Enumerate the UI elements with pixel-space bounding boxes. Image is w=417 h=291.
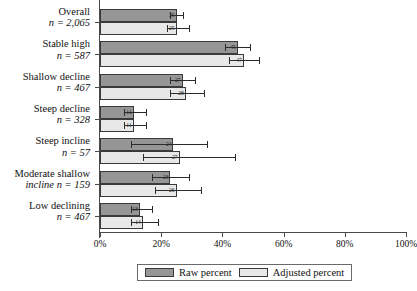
- error-bar-line: [131, 209, 152, 210]
- error-bar-cap: [152, 174, 153, 181]
- error-bar-cap: [189, 25, 190, 32]
- category-name: Steep incline: [0, 135, 90, 146]
- category-sample-size: n = 57: [0, 147, 90, 158]
- error-bar-cap: [146, 122, 147, 129]
- bar-group: 1111: [100, 106, 406, 132]
- category-sample-size: n = 587: [0, 50, 90, 61]
- error-bar-line: [143, 157, 235, 158]
- category-sample-size: n = 467: [0, 211, 90, 222]
- error-bar-cap: [131, 141, 132, 148]
- error-bar-cap: [259, 57, 260, 64]
- error-bar-cap: [235, 154, 236, 161]
- x-tick-label: 20%: [152, 239, 169, 249]
- category-label: Overalln = 2,065: [0, 6, 90, 29]
- bar-raw: [100, 41, 238, 54]
- category-name: Overall: [0, 6, 90, 17]
- error-bar-cap: [207, 141, 208, 148]
- error-bar-cap: [204, 90, 205, 97]
- error-bar-cap: [131, 206, 132, 213]
- x-tick-label: 40%: [214, 239, 231, 249]
- error-bar-line: [124, 112, 145, 113]
- category-label: Steep declinen = 328: [0, 103, 90, 126]
- category-name: Shallow decline: [0, 71, 90, 82]
- error-bar-cap: [189, 174, 190, 181]
- error-bar-cap: [195, 77, 196, 84]
- error-bar-cap: [170, 12, 171, 19]
- x-tick-60: [284, 232, 285, 237]
- legend-swatch-adjusted: [239, 268, 268, 277]
- category-name: Steep decline: [0, 103, 90, 114]
- x-tick-label: 0%: [94, 239, 107, 249]
- legend-label-adjusted: Adjusted percent: [273, 267, 344, 278]
- error-bar-cap: [250, 44, 251, 51]
- x-axis-line: [99, 232, 406, 233]
- error-bar-cap: [170, 90, 171, 97]
- error-bar-line: [131, 144, 208, 145]
- bar-group: 2427: [100, 138, 406, 164]
- error-bar-cap: [158, 219, 159, 226]
- category-sample-size: n = 328: [0, 114, 90, 125]
- x-tick-label: 60%: [275, 239, 292, 249]
- legend-item-adjusted: Adjusted percent: [239, 267, 344, 278]
- x-tick-0: [100, 232, 101, 237]
- error-bar-line: [152, 177, 189, 178]
- category-axis-labels: Overalln = 2,065Stable highn = 587Shallo…: [0, 0, 96, 232]
- error-bar-line: [131, 222, 159, 223]
- category-label: Shallow declinen = 467: [0, 71, 90, 94]
- bar-group: 2525: [100, 9, 406, 35]
- chart-legend: Raw percent Adjusted percent: [137, 264, 352, 281]
- error-bar-cap: [201, 187, 202, 194]
- legend-item-raw: Raw percent: [145, 267, 232, 278]
- error-bar-cap: [183, 12, 184, 19]
- error-bar-cap: [170, 77, 171, 84]
- plot-area: 0%20%40%60%80%100% 252545472728111124272…: [100, 6, 406, 232]
- legend-label-raw: Raw percent: [179, 267, 232, 278]
- category-label: Stable highn = 587: [0, 38, 90, 61]
- error-bar-cap: [229, 57, 230, 64]
- bar-group: 4547: [100, 41, 406, 67]
- category-name: Stable high: [0, 38, 90, 49]
- error-bar-cap: [152, 206, 153, 213]
- bar-raw: [100, 9, 177, 22]
- error-bar-line: [167, 28, 188, 29]
- category-label: Low decliningn = 467: [0, 200, 90, 223]
- error-bar-cap: [167, 25, 168, 32]
- category-name: Moderate shallow: [0, 168, 90, 179]
- x-tick-label: 100%: [395, 239, 417, 249]
- error-bar-cap: [124, 122, 125, 129]
- error-bar-cap: [225, 44, 226, 51]
- category-label: Moderate shallowincline n = 159: [0, 168, 90, 191]
- legend-swatch-raw: [145, 268, 174, 277]
- x-tick-80: [345, 232, 346, 237]
- error-bar-line: [170, 80, 194, 81]
- error-bar-cap: [131, 219, 132, 226]
- bar-group: 1314: [100, 203, 406, 229]
- error-bar-cap: [124, 109, 125, 116]
- x-tick-40: [222, 232, 223, 237]
- error-bar-line: [225, 47, 249, 48]
- error-bar-line: [170, 15, 182, 16]
- x-tick-100: [406, 232, 407, 237]
- bar-adjusted: [100, 22, 177, 35]
- error-bar-cap: [155, 187, 156, 194]
- error-bar-line: [155, 190, 201, 191]
- x-tick-20: [161, 232, 162, 237]
- bar-group: 2728: [100, 74, 406, 100]
- error-bar-line: [229, 60, 260, 61]
- error-bar-line: [170, 93, 204, 94]
- bar-adjusted: [100, 54, 244, 67]
- error-bar-cap: [143, 154, 144, 161]
- category-sample-size: n = 2,065: [0, 17, 90, 28]
- category-sample-size: n = 467: [0, 82, 90, 93]
- x-tick-label: 80%: [336, 239, 353, 249]
- error-bar-cap: [146, 109, 147, 116]
- category-sample-size: incline n = 159: [0, 179, 90, 190]
- category-label: Steep inclinen = 57: [0, 135, 90, 158]
- bar-group: 2326: [100, 171, 406, 197]
- category-name: Low declining: [0, 200, 90, 211]
- error-bar-line: [124, 125, 145, 126]
